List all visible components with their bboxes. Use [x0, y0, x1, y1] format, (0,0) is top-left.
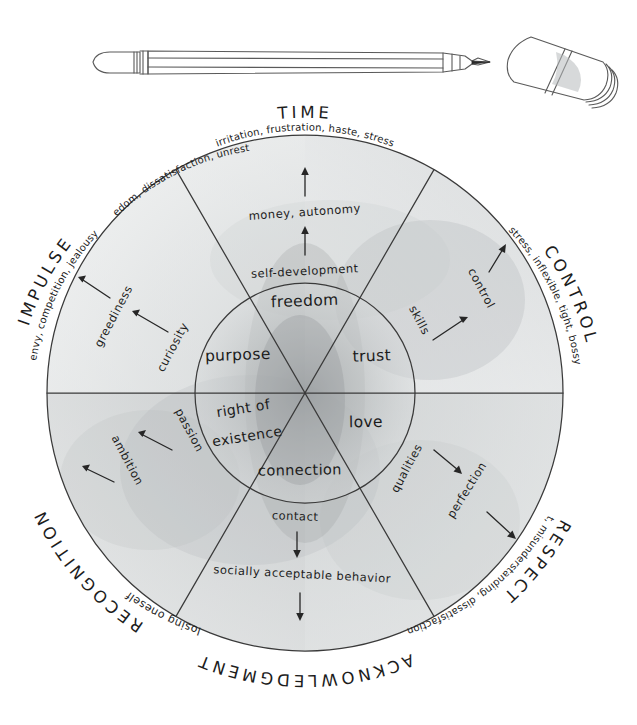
diagram-canvas: TIME CONTROL RESPECT ACKNOWLEDGMENT RECO…	[0, 0, 637, 725]
axis-label-time: TIME	[276, 103, 333, 123]
pencil-icon	[93, 51, 490, 74]
eraser-icon	[507, 37, 618, 108]
core-term-purpose: purpose	[205, 345, 271, 365]
core-term-love: love	[349, 413, 383, 432]
core-term-trust: trust	[352, 346, 391, 365]
axis-label-acknowledgment: ACKNOWLEDGMENT	[193, 650, 416, 690]
inner-term-acknowledgment: contact	[272, 508, 319, 524]
core-term-connection: connection	[258, 461, 342, 478]
core-term-freedom: freedom	[271, 291, 339, 311]
